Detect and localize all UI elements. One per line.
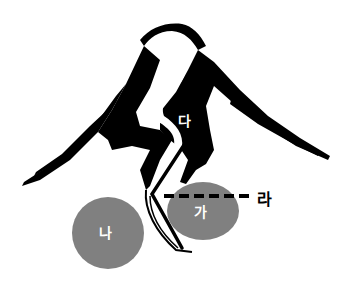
label-ga: 가 xyxy=(194,201,207,221)
label-na: 나 xyxy=(99,222,112,242)
mountain-ink xyxy=(22,24,330,190)
label-ra: 라 xyxy=(257,186,272,210)
label-da: 다 xyxy=(178,110,191,130)
diagram-canvas: 가 나 다 라 xyxy=(0,0,345,282)
mountain-sketch xyxy=(0,0,345,282)
